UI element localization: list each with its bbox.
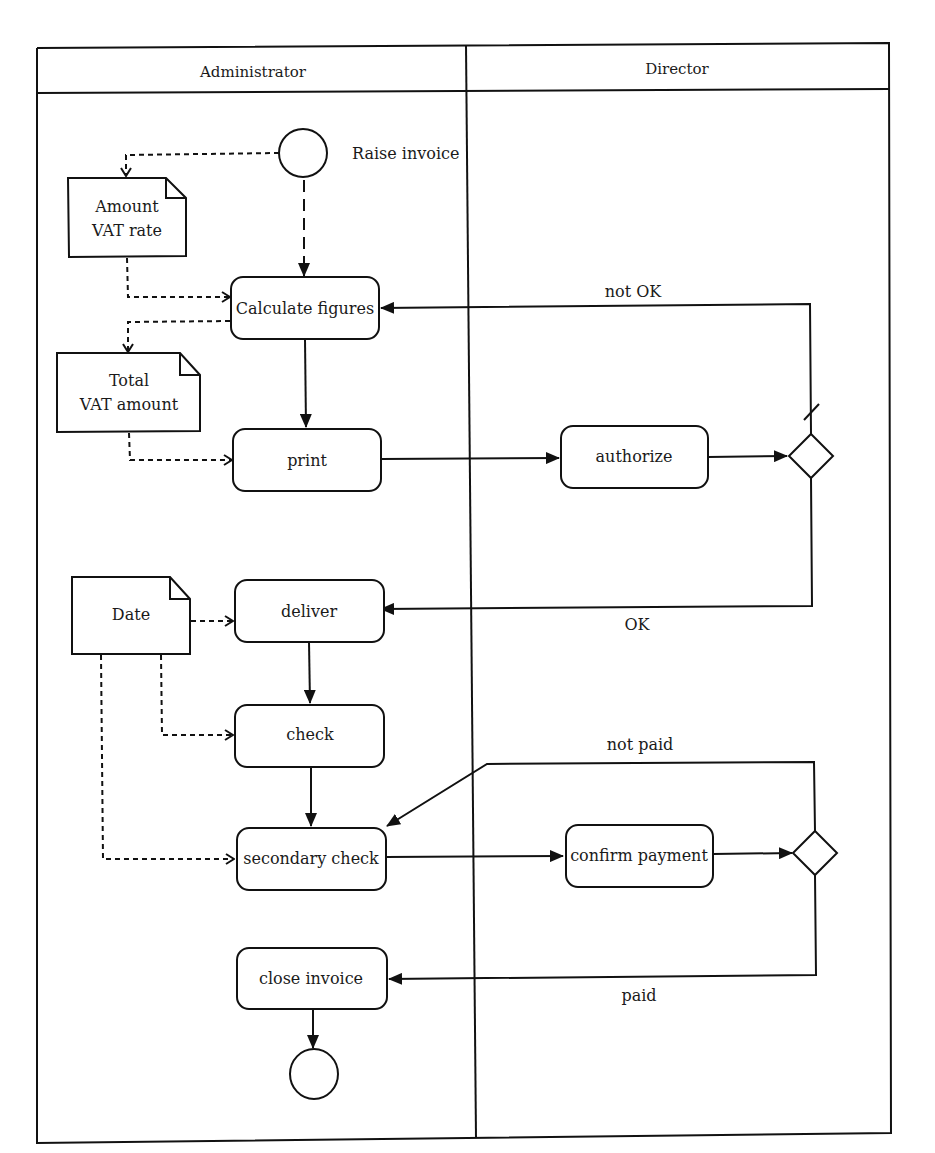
action-confirm-payment-label: confirm payment — [570, 846, 708, 865]
object-amount-label: Amount — [94, 197, 159, 216]
object-date-label: Date — [112, 605, 150, 624]
guard-not-ok: not OK — [605, 282, 663, 301]
guard-ok: OK — [624, 615, 650, 634]
object-total-label: Total — [109, 371, 149, 390]
decision-authorize — [789, 434, 833, 478]
activity-diagram: Administrator Director Raise invoice Amo… — [0, 0, 935, 1153]
action-calculate-figures-label: Calculate figures — [236, 299, 374, 318]
action-deliver-label: deliver — [281, 602, 337, 621]
action-check-label: check — [286, 725, 334, 744]
object-total-vat-amount — [57, 353, 200, 432]
action-close-invoice-label: close invoice — [259, 969, 363, 988]
object-amount-vat-rate — [68, 178, 186, 257]
action-authorize-label: authorize — [596, 447, 673, 466]
object-vat-rate-label: VAT rate — [91, 221, 162, 240]
guard-paid: paid — [621, 986, 656, 1005]
lane-header-director: Director — [645, 60, 709, 78]
start-label: Raise invoice — [352, 144, 459, 163]
lane-header-administrator: Administrator — [199, 63, 307, 81]
object-vat-amount-label: VAT amount — [79, 395, 179, 414]
decision-payment — [793, 831, 837, 875]
guard-not-paid: not paid — [607, 735, 674, 754]
final-node — [290, 1049, 338, 1099]
action-print-label: print — [287, 451, 327, 470]
action-secondary-check-label: secondary check — [243, 849, 379, 868]
initial-node — [279, 129, 327, 177]
